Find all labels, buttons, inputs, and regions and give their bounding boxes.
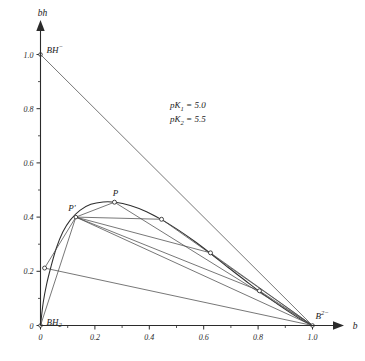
- x-tick-label-0: 0: [39, 333, 43, 342]
- chart-figure: 00.20.40.60.81.000.20.40.60.81.0bhb BH2B…: [0, 0, 365, 361]
- spoke-origin-to-fan-center: [41, 217, 76, 325]
- chord-to-lower-right: [76, 217, 260, 291]
- series-bh-minus-to-b2-line: [41, 55, 313, 326]
- marker-lower-right: [257, 289, 261, 293]
- x-axis-arrowhead: [333, 321, 344, 329]
- marker-peak-P: [112, 200, 116, 204]
- axis-tick-labels-layer: 00.20.40.60.81.000.20.40.60.81.0bhb: [24, 8, 358, 342]
- chord-to-upper-right: [76, 217, 162, 219]
- point-label-P-prime: P': [67, 203, 76, 213]
- species-bh-minus: BH−: [47, 43, 63, 54]
- annotation-pk2: pK2 = 5.5: [169, 114, 206, 126]
- data-series-layer: [41, 55, 313, 326]
- marker-lower-left: [43, 266, 47, 270]
- x-tick-label-0.4: 0.4: [144, 333, 154, 342]
- x-tick-label-1.0: 1.0: [308, 333, 318, 342]
- marker-mid-right: [209, 251, 213, 255]
- x-tick-label-0.6: 0.6: [199, 333, 209, 342]
- y-tick-label-0.6: 0.6: [24, 159, 34, 168]
- axis-lines-layer: [36, 20, 344, 330]
- chord-to-b2-minus: [76, 217, 313, 325]
- species-bh2: BH2: [47, 317, 63, 328]
- y-tick-label-0.4: 0.4: [24, 213, 34, 222]
- x-axis-label: b: [353, 321, 358, 331]
- axis-ticks-layer: [37, 55, 313, 330]
- y-tick-label-1.0: 1.0: [24, 51, 34, 60]
- y-axis-arrowhead: [36, 20, 44, 31]
- point-label-P: P: [112, 188, 119, 198]
- chord-to-mid-right: [76, 217, 211, 253]
- plot-canvas: 00.20.40.60.81.000.20.40.60.81.0bhb BH2B…: [0, 0, 365, 361]
- x-tick-label-0.8: 0.8: [253, 333, 263, 342]
- annotation-pk1: pK1 = 5.0: [169, 100, 206, 112]
- fan-center-marker: [74, 215, 78, 219]
- chord-to-lower-left: [45, 217, 76, 268]
- tie-lower-right: [259, 291, 312, 326]
- y-tick-label-0.8: 0.8: [24, 105, 34, 114]
- y-tick-label-0: 0: [30, 322, 34, 331]
- y-axis-label: bh: [38, 8, 48, 18]
- y-tick-label-0.2: 0.2: [24, 267, 34, 276]
- species-b-2-minus: B2−: [316, 309, 329, 320]
- x-tick-label-0.2: 0.2: [90, 333, 100, 342]
- marker-upper-right: [160, 217, 164, 221]
- annotation-layer: BH2BH−B2−PP'pK1 = 5.0pK2 = 5.5: [47, 43, 329, 328]
- tie-peak: [114, 202, 312, 325]
